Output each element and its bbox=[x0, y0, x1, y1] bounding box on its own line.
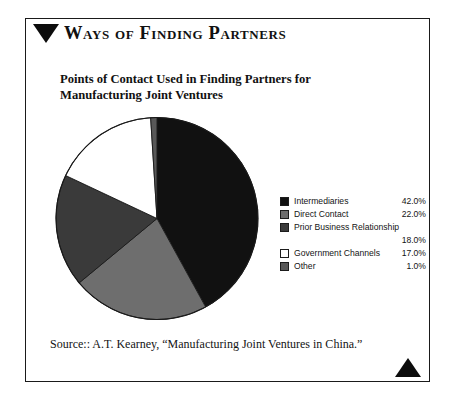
legend-label: Intermediaries bbox=[294, 195, 348, 208]
legend-item: Government Channels17.0% bbox=[280, 247, 426, 260]
chart-subtitle-line-1: Points of Contact Used in Finding Partne… bbox=[60, 71, 390, 87]
legend-label: Other bbox=[294, 260, 316, 273]
legend-item: Prior Business Relationship bbox=[280, 221, 426, 234]
page-title: Ways of Finding Partners bbox=[64, 23, 286, 44]
exhibit-header: Ways of Finding Partners bbox=[26, 19, 429, 53]
legend-label: Government Channels bbox=[294, 247, 380, 260]
legend-label: Prior Business Relationship bbox=[294, 221, 399, 234]
triangle-up-icon bbox=[395, 358, 421, 377]
exhibit-frame: Ways of Finding Partners Points of Conta… bbox=[25, 18, 430, 382]
legend-item: Other1.0% bbox=[280, 260, 426, 273]
legend-swatch bbox=[280, 262, 289, 271]
legend-value: 1.0% bbox=[406, 260, 426, 273]
legend-item: 18.0% bbox=[280, 234, 426, 247]
legend-value: 18.0% bbox=[402, 234, 426, 247]
legend-value: 17.0% bbox=[402, 247, 426, 260]
legend-swatch bbox=[280, 210, 289, 219]
chart-subtitle-line-2: Manufacturing Joint Ventures bbox=[60, 87, 390, 103]
pie-chart-svg bbox=[48, 111, 266, 326]
legend-item: Intermediaries42.0% bbox=[280, 195, 426, 208]
legend-value: 42.0% bbox=[402, 195, 426, 208]
chart-subtitle: Points of Contact Used in Finding Partne… bbox=[60, 71, 390, 103]
legend-swatch bbox=[280, 249, 289, 258]
pie-slices bbox=[56, 118, 258, 320]
legend-item: Direct Contact22.0% bbox=[280, 208, 426, 221]
pie-chart bbox=[48, 111, 266, 326]
chart-legend: Intermediaries42.0%Direct Contact22.0%Pr… bbox=[280, 195, 426, 273]
legend-swatch bbox=[280, 197, 289, 206]
chart-area: Intermediaries42.0%Direct Contact22.0%Pr… bbox=[26, 111, 429, 326]
legend-label: Direct Contact bbox=[294, 208, 348, 221]
legend-value: 22.0% bbox=[402, 208, 426, 221]
source-note: Source:: A.T. Kearney, “Manufacturing Jo… bbox=[50, 337, 362, 352]
legend-swatch bbox=[280, 223, 289, 232]
triangle-down-icon bbox=[33, 24, 59, 43]
